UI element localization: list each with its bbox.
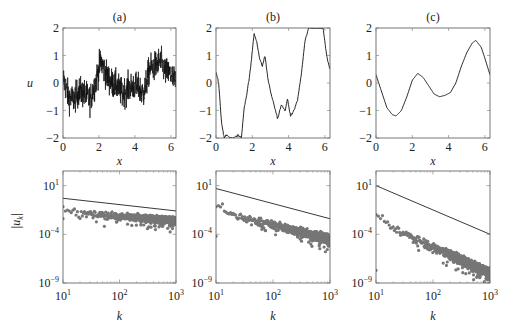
spectrum-point	[234, 213, 237, 216]
spectrum-point	[397, 227, 400, 230]
y-tick-label: −2	[199, 131, 212, 145]
x-tick-label: 4	[446, 140, 452, 154]
spectrum-point	[446, 260, 449, 263]
spectrum-point	[171, 227, 174, 230]
y-tick-label: 10−9	[38, 275, 59, 290]
y-tick-label: −1	[46, 104, 59, 118]
reference-slope-line	[63, 198, 176, 211]
x-tick-label: 0	[213, 140, 219, 154]
x-axis-label: x	[269, 154, 276, 168]
spectrum-point	[103, 225, 106, 228]
y-tick-label: −2	[46, 131, 59, 145]
x-tick-label: 102	[112, 288, 128, 303]
x-tick-label: 4	[132, 140, 138, 154]
spectrum-point	[250, 223, 253, 226]
subplot-title: (a)	[113, 10, 126, 24]
y-tick-label: 2	[53, 21, 59, 35]
spectrum-point	[126, 223, 129, 226]
x-tick-label: 103	[482, 288, 498, 303]
x-tick-label: 6	[482, 140, 488, 154]
spectrum-point	[130, 224, 133, 227]
x-tick-label: 103	[322, 288, 338, 303]
x-tick-label: 101	[208, 288, 224, 303]
series-line-c	[376, 40, 490, 116]
y-tick-label: 10−4	[351, 226, 372, 241]
x-axis-label: k	[430, 309, 436, 323]
x-tick-label: 2	[409, 140, 415, 154]
y-tick-label: 2	[366, 21, 372, 35]
y-axis-label: u	[27, 76, 33, 90]
y-tick-label: 0	[206, 76, 212, 90]
spectrum-point	[73, 207, 76, 210]
spectrum-point	[85, 215, 88, 218]
spectrum-point	[166, 227, 169, 230]
x-tick-label: 0	[373, 140, 379, 154]
spectrum-point	[219, 205, 222, 208]
y-tick-label: −1	[199, 104, 212, 118]
y-axis-label: |uk|	[9, 213, 25, 229]
spectrum-point	[326, 248, 329, 251]
y-tick-label: 0	[366, 76, 372, 90]
y-tick-label: 10−9	[351, 275, 372, 290]
axes-frame	[216, 28, 330, 138]
y-tick-label: 101	[356, 178, 372, 193]
y-tick-label: 10−9	[191, 275, 212, 290]
spectrum-point	[169, 230, 172, 233]
spectrum-point	[76, 210, 79, 213]
spectrum-point	[457, 267, 460, 270]
spectrum-point	[377, 215, 380, 218]
plot-a: 0246−2−1012(a)xu	[27, 10, 176, 168]
x-axis-label: k	[270, 309, 276, 323]
y-tick-label: 10−4	[38, 226, 59, 241]
spectrum-point	[237, 217, 240, 220]
x-axis-label: x	[429, 154, 436, 168]
x-axis-label: k	[117, 309, 123, 323]
y-tick-label: 0	[53, 76, 59, 90]
spectrum-point	[81, 214, 84, 217]
y-tick-label: 1	[206, 49, 212, 63]
x-tick-label: 101	[368, 288, 384, 303]
spectrum-point	[395, 231, 398, 234]
subplot-title: (b)	[266, 10, 280, 24]
spectrum-point	[416, 244, 419, 247]
x-tick-label: 4	[286, 140, 292, 154]
x-tick-label: 102	[425, 288, 441, 303]
x-axis-label: x	[116, 154, 123, 168]
spectrum-point	[417, 249, 420, 252]
y-tick-label: 101	[43, 178, 59, 193]
x-tick-label: 0	[60, 140, 66, 154]
subplot-title: (c)	[426, 10, 439, 24]
spectrum-point	[310, 245, 313, 248]
x-tick-label: 102	[265, 288, 281, 303]
spectrum-point	[388, 223, 391, 226]
spectrum-point	[300, 240, 303, 243]
axes-frame	[376, 28, 490, 138]
y-tick-label: 2	[206, 21, 212, 35]
spectrum-point	[386, 220, 389, 223]
spectrum-point	[78, 217, 81, 220]
spectrum-point	[94, 211, 97, 214]
spectrum-point	[442, 262, 445, 265]
spectrum-point	[154, 228, 157, 231]
x-tick-label: 101	[55, 288, 71, 303]
spectrum-point	[139, 223, 142, 226]
plot-a_spec: 10110210310−910−4101k|uk|	[9, 171, 184, 323]
y-tick-label: 1	[366, 49, 372, 63]
spectrum-point	[74, 214, 77, 217]
spectrum-point	[415, 240, 418, 243]
spectrum-point	[274, 233, 277, 236]
plot-b: 0246−2−1012(b)x	[199, 10, 330, 168]
spectrum-point	[306, 227, 309, 230]
spectrum-point	[95, 220, 98, 223]
spectrum-point	[472, 273, 475, 276]
series-line-b	[216, 28, 330, 138]
x-tick-label: 2	[249, 140, 255, 154]
y-tick-label: 101	[196, 178, 212, 193]
spectrum-point	[464, 272, 467, 275]
spectrum-point	[417, 236, 420, 239]
x-tick-label: 103	[168, 288, 184, 303]
spectrum-point	[461, 271, 464, 274]
spectrum-point	[381, 214, 384, 217]
figure: 0246−2−1012(a)xu0246−2−1012(b)x0246−2−10…	[0, 0, 509, 327]
x-tick-label: 6	[322, 140, 328, 154]
